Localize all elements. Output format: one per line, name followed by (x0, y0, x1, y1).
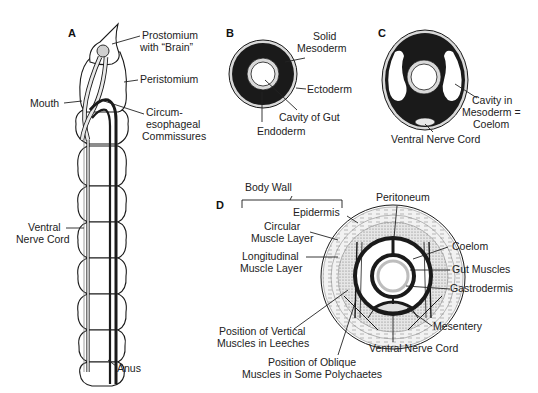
label-with-brain: with “Brain” (139, 41, 194, 53)
label-ventral: Ventral (28, 221, 61, 233)
panel-c-letter: C (378, 27, 386, 39)
label-anus: Anus (117, 362, 141, 374)
label-nerve-cord: Nerve Cord (16, 233, 70, 245)
label-circular: Circular (264, 220, 301, 232)
label-body-wall: Body Wall (245, 181, 292, 193)
label-peritoneum: Peritoneum (376, 191, 430, 203)
panel-d-letter: D (216, 199, 224, 211)
label-longitudinal-muscle-layer: Muscle Layer (240, 262, 303, 274)
label-coelom-d: Coelom (452, 240, 488, 252)
label-circum: Circum- (146, 106, 183, 118)
panel-b-letter: B (226, 27, 234, 39)
label-vertical: Position of Vertical (219, 325, 305, 337)
ventral-nerve-cord-c (415, 118, 435, 126)
label-circular-muscle-layer: Muscle Layer (251, 232, 314, 244)
panel-a: A Prostomium wi (16, 24, 206, 386)
label-coelom: Coelom (473, 118, 509, 130)
label-mesoderm: Mesoderm (297, 42, 347, 54)
label-ectoderm: Ectoderm (307, 83, 352, 95)
panel-c: C Cavity in Mesoderm = Coelom Ventral Ne… (378, 27, 521, 145)
panel-a-letter: A (68, 27, 76, 39)
panel-d: D Body Wall Epidermis Circular (216, 181, 513, 380)
label-peristomium: Peristomium (140, 73, 199, 85)
label-mesentery: Mesentery (433, 320, 483, 332)
label-vnc-d: Ventral Nerve Cord (369, 342, 458, 354)
label-mesoderm-eq: Mesoderm = (462, 106, 521, 118)
label-gastrodermis: Gastrodermis (450, 282, 513, 294)
label-vnc-c: Ventral Nerve Cord (391, 133, 480, 145)
label-solid: Solid (313, 30, 337, 42)
label-mouth: Mouth (30, 97, 59, 109)
label-cavity-of-gut: Cavity of Gut (279, 111, 340, 123)
label-epidermis: Epidermis (293, 206, 340, 218)
label-esophageal: esophageal (146, 118, 200, 130)
label-oblique: Position of Oblique (268, 356, 356, 368)
label-cavity-in: Cavity in (472, 94, 512, 106)
label-endoderm: Endoderm (257, 125, 306, 137)
label-gut-muscles: Gut Muscles (452, 263, 510, 275)
panel-b: B Solid Mesoderm Ectoderm Cavity of Gut … (226, 27, 352, 137)
label-vertical-leeches: Muscles in Leeches (217, 337, 309, 349)
gut-cavity (251, 62, 275, 86)
label-oblique-polychaetes: Muscles in Some Polychaetes (242, 368, 382, 380)
gut-cavity-c (411, 64, 437, 90)
label-prostomium: Prostomium (142, 29, 198, 41)
brain (97, 45, 109, 57)
gastrodermis (378, 261, 408, 291)
label-commissures: Commissures (142, 130, 206, 142)
figure-canvas: A Prostomium wi (0, 0, 538, 393)
label-longitudinal: Longitudinal (242, 250, 299, 262)
